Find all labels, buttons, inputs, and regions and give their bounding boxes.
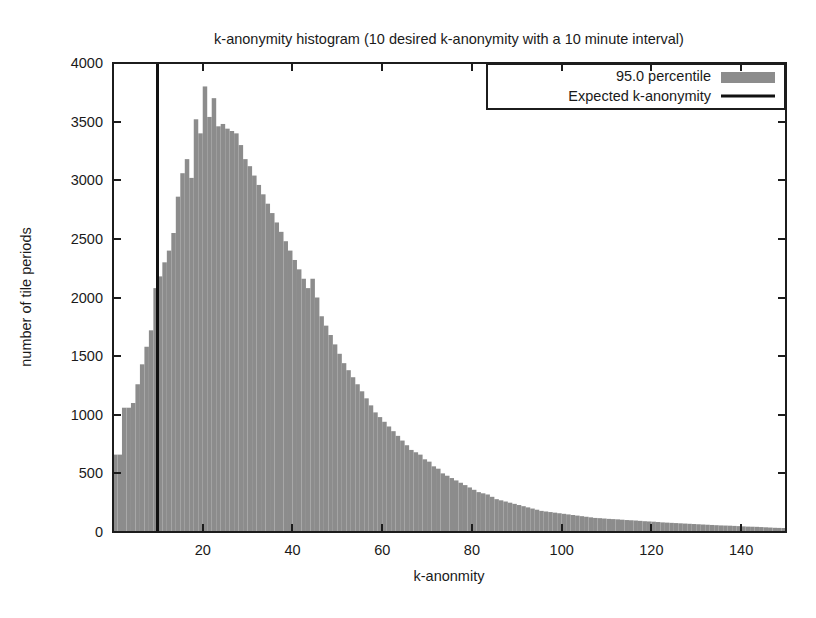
histogram-bar — [176, 197, 180, 532]
histogram-bar — [544, 511, 548, 532]
histogram-bar — [669, 523, 673, 532]
x-axis-tick-label: 40 — [284, 542, 300, 558]
histogram-bar — [355, 384, 359, 532]
x-axis-tick-labels: 20406080100120140 — [195, 542, 754, 558]
histogram-bar — [275, 222, 279, 532]
histogram-bar — [162, 262, 166, 532]
x-axis-title: k-anonmity — [414, 568, 486, 584]
y-axis-tick-label: 1000 — [71, 407, 103, 423]
y-axis-tick-label: 2000 — [71, 290, 103, 306]
y-axis-tick-label: 3500 — [71, 114, 103, 130]
histogram-bar — [616, 519, 620, 532]
histogram-bar — [705, 525, 709, 532]
y-axis-tick-labels: 05001000150020002500300035004000 — [71, 55, 103, 540]
legend-item-percentile-swatch — [721, 72, 775, 83]
histogram-bar — [301, 279, 305, 532]
chart-title: k-anonymity histogram (10 desired k-anon… — [214, 31, 684, 47]
y-axis-tick-label: 3000 — [71, 172, 103, 188]
histogram-bar — [185, 159, 189, 532]
x-axis-tick-label: 140 — [729, 542, 753, 558]
x-axis-tick-label: 60 — [374, 542, 390, 558]
histogram-bar — [216, 126, 220, 532]
histogram-bar — [270, 213, 274, 532]
histogram-bar — [234, 133, 238, 532]
histogram-bar — [342, 363, 346, 532]
y-axis-tick-label: 4000 — [71, 55, 103, 71]
histogram-bar — [351, 377, 355, 532]
legend-item-expected-label: Expected k-anonymity — [568, 88, 711, 104]
histogram-bar — [167, 251, 171, 532]
histogram-bar — [687, 524, 691, 532]
histogram-bar — [149, 330, 153, 532]
histogram-bar — [441, 473, 445, 532]
histogram-bar — [225, 129, 229, 532]
histogram-bar — [445, 476, 449, 532]
histogram-bar — [530, 509, 534, 532]
histogram-bar — [463, 485, 467, 532]
histogram-bar — [328, 335, 332, 532]
histogram-bar — [548, 512, 552, 532]
y-axis-tick-label: 1500 — [71, 348, 103, 364]
histogram-bar — [194, 119, 198, 532]
histogram-bar — [292, 260, 296, 532]
histogram-bar — [678, 523, 682, 532]
histogram-bar — [553, 513, 557, 532]
histogram-bar — [230, 131, 234, 532]
histogram-bar — [427, 462, 431, 532]
histogram-bar — [221, 124, 225, 532]
histogram-bar — [414, 452, 418, 532]
histogram-bar — [607, 519, 611, 532]
chart-figure: k-anonymity histogram (10 desired k-anon… — [0, 0, 816, 618]
y-axis-tick-label: 2500 — [71, 231, 103, 247]
histogram-bar — [400, 441, 404, 532]
histogram-bar — [252, 176, 256, 532]
histogram-bar — [131, 403, 135, 532]
histogram-bar — [369, 405, 373, 532]
histogram-bar — [481, 493, 485, 532]
histogram-bar — [171, 233, 175, 532]
histogram-bar — [248, 166, 252, 532]
histogram-bar — [485, 494, 489, 532]
histogram-bar — [140, 364, 144, 532]
histogram-bar — [391, 431, 395, 532]
histogram-bar — [454, 480, 458, 532]
histogram-bar — [266, 204, 270, 532]
histogram-bar — [629, 520, 633, 532]
histogram-svg: k-anonymity histogram (10 desired k-anon… — [0, 0, 816, 618]
histogram-bar — [360, 391, 364, 532]
histogram-bar — [665, 523, 669, 532]
histogram-bar — [611, 519, 615, 532]
y-axis-tick-label: 500 — [79, 465, 103, 481]
histogram-bar — [423, 459, 427, 532]
histogram-bar — [135, 384, 139, 532]
histogram-bar — [450, 478, 454, 532]
histogram-bar — [490, 497, 494, 532]
histogram-bar — [620, 520, 624, 532]
histogram-bar — [580, 516, 584, 532]
histogram-bars — [113, 86, 786, 532]
histogram-bar — [243, 159, 247, 532]
histogram-bar — [642, 521, 646, 532]
x-axis-tick-label: 80 — [464, 542, 480, 558]
histogram-bar — [575, 516, 579, 532]
histogram-bar — [288, 251, 292, 532]
histogram-bar — [126, 408, 130, 532]
histogram-bar — [660, 522, 664, 532]
histogram-bar — [261, 194, 265, 532]
histogram-bar — [324, 326, 328, 532]
legend-item-percentile-label: 95.0 percentile — [616, 68, 711, 84]
histogram-bar — [584, 517, 588, 532]
histogram-bar — [692, 524, 696, 532]
histogram-bar — [333, 344, 337, 532]
histogram-bar — [409, 450, 413, 532]
histogram-bar — [526, 507, 530, 532]
histogram-bar — [598, 518, 602, 532]
histogram-bar — [714, 525, 718, 532]
histogram-bar — [418, 455, 422, 532]
histogram-bar — [512, 504, 516, 532]
histogram-bar — [122, 408, 126, 532]
histogram-bar — [701, 525, 705, 533]
histogram-bar — [696, 524, 700, 532]
histogram-bar — [503, 502, 507, 532]
histogram-bar — [405, 445, 409, 532]
